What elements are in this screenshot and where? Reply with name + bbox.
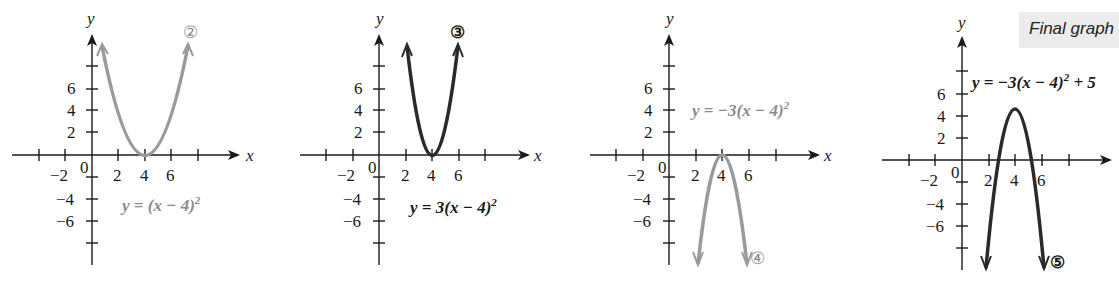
x-tick-neg2: −2 [50,167,68,184]
graph-step-2 [0,0,280,282]
x-axis-label: x [534,147,542,164]
origin-label: 0 [951,164,960,181]
x-axis-label: x [824,147,832,164]
y-axis-label: y [958,14,966,31]
x-tick-2: 2 [691,167,700,184]
x-tick-4: 4 [717,167,726,184]
x-tick-6: 6 [744,167,753,184]
parabola-curve [407,46,458,156]
equation-1: y = (x − 4)2 [122,195,200,214]
y-tick-6: 6 [354,80,363,97]
x-tick-4: 4 [1010,172,1019,189]
y-tick-neg4: −4 [343,191,361,208]
graph-1-svg [0,0,280,282]
graph-2-svg [280,0,570,282]
x-tick-6: 6 [166,167,175,184]
x-tick-4: 4 [140,167,149,184]
y-tick-neg4: −4 [633,191,651,208]
origin-label: 0 [658,159,667,176]
x-tick-neg2: −2 [337,167,355,184]
y-tick-neg6: −6 [633,213,651,230]
y-axis-label: y [376,10,384,27]
y-tick-4: 4 [67,102,76,119]
y-tick-6: 6 [937,86,946,103]
x-tick-4: 4 [427,167,436,184]
equation-2: y = 3(x − 4)2 [410,197,497,216]
y-tick-neg4: −4 [926,196,944,213]
step-marker-3: ③ [450,24,465,41]
y-tick-neg4: −4 [56,191,74,208]
final-graph-tag: Final graph [1019,12,1119,48]
y-tick-2: 2 [67,124,76,141]
origin-label: 0 [368,159,377,176]
x-tick-neg2: −2 [920,172,938,189]
x-tick-neg2: −2 [627,167,645,184]
y-tick-6: 6 [644,80,653,97]
x-tick-2: 2 [401,167,410,184]
y-tick-2: 2 [644,124,653,141]
x-axis-label: x [246,147,254,164]
step-marker-2: ② [183,24,198,41]
equation-3: y = −3(x − 4)2 [692,100,789,119]
parabola-curve [102,46,188,156]
x-tick-2: 2 [113,167,122,184]
y-axis-label: y [666,10,674,27]
y-tick-neg6: −6 [56,213,74,230]
graph-step-3 [280,0,570,282]
y-tick-4: 4 [644,102,653,119]
x-tick-2: 2 [984,172,993,189]
y-tick-neg6: −6 [926,218,944,235]
graph-step-4 [570,0,860,282]
y-tick-4: 4 [354,102,363,119]
y-tick-6: 6 [67,80,76,97]
x-tick-6: 6 [1037,172,1046,189]
y-tick-neg6: −6 [343,213,361,230]
graph-3-svg [570,0,860,282]
y-tick-2: 2 [354,124,363,141]
x-tick-6: 6 [454,167,463,184]
step-marker-5: ⑤ [1050,254,1065,271]
origin-label: 0 [80,159,89,176]
step-marker-4: ④ [750,250,765,267]
final-graph-label: Final graph [1029,19,1114,39]
y-tick-2: 2 [937,130,946,147]
y-tick-4: 4 [937,108,946,125]
equation-4: y = −3(x − 4)2 + 5 [972,72,1096,91]
axes [12,36,238,265]
y-axis-label: y [87,10,95,27]
